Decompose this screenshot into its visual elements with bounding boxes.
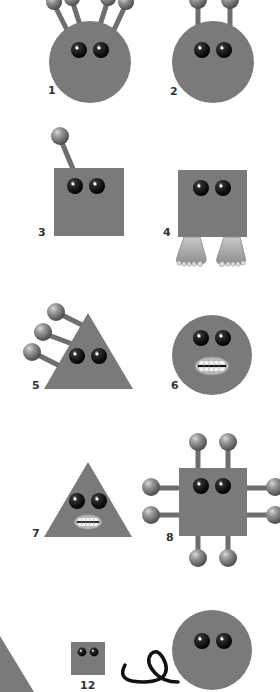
feet-icon (177, 237, 246, 267)
character-tail-circle (123, 610, 252, 690)
character-figure: 1 2 3 4 5 6 7 8 12 (0, 0, 280, 692)
character-7 (44, 462, 132, 537)
figure-canvas (0, 0, 280, 692)
character-12 (71, 642, 105, 675)
character-4 (177, 170, 248, 267)
character-6 (172, 315, 252, 395)
label-4: 4 (163, 227, 171, 238)
label-5: 5 (32, 380, 40, 391)
character-3 (51, 127, 124, 236)
label-7: 7 (32, 528, 40, 539)
label-8: 8 (166, 532, 174, 543)
character-partial-triangle (0, 636, 34, 692)
character-1 (46, 0, 134, 103)
character-2 (172, 0, 254, 103)
label-1: 1 (48, 85, 56, 96)
label-2: 2 (170, 86, 178, 97)
label-12: 12 (80, 680, 95, 691)
character-8 (142, 433, 280, 567)
character-5 (23, 303, 133, 389)
label-3: 3 (38, 227, 46, 238)
label-6: 6 (171, 380, 179, 391)
